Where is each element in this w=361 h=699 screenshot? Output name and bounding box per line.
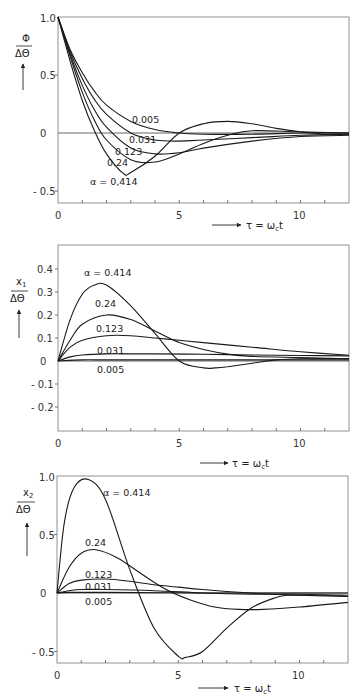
xtick-10: 10 [293,437,306,450]
ytick-neg0.1: - 0.1 [31,378,53,391]
ytick-1.0: 1.0 [40,12,56,25]
x-ticks [81,660,324,663]
xtick-10: 10 [293,209,306,222]
xtick-5: 5 [176,437,182,450]
label-0.123: 0.123 [85,569,112,580]
xtick-10: 10 [292,669,305,682]
ytick-0.1: 0.1 [37,332,53,345]
label-0.005: 0.005 [132,114,159,125]
ylabel-num: x2 [23,487,33,500]
label-0.24: 0.24 [95,298,116,309]
ytick-0: 0 [40,355,46,368]
ylabel-num: x1 [16,276,26,289]
x-ticks [82,200,325,203]
xtick-0: 0 [54,669,60,682]
curve-0.031 [58,17,349,141]
label-0.005: 0.005 [97,364,124,375]
xtick-5: 5 [176,209,182,222]
ytick-0.3: 0.3 [37,286,53,299]
label-0.031: 0.031 [97,345,124,356]
label-0.414: α = 0,414 [90,176,137,187]
ytick-neg0.5: - 0.5 [32,646,54,659]
curves [58,17,349,175]
figure: 1.0 0.5 0 - 0.5 0 5 10 Φ ΔΘ τ = ωct 0.00… [0,0,361,699]
label-0.123: 0.123 [96,323,123,334]
xlabel: τ = ωct [234,683,271,696]
y-ticks [54,535,57,652]
ytick-1.0: 1.0 [39,471,55,484]
xlabel: τ = ωct [232,458,269,471]
ytick-neg0.5: - 0.5 [33,185,55,198]
ytick-0: 0 [40,127,46,140]
x-ticks [82,428,325,431]
label-0.031: 0.031 [85,581,112,592]
label-0.24: 0.24 [85,537,106,548]
ytick-0.5: 0.5 [39,529,55,542]
y-ticks [55,75,58,191]
y-ticks [55,269,58,407]
plot-x2: 1.0 0.5 0 - 0.5 0 5 10 x2 ΔΘ τ = ωct α =… [16,471,348,696]
xtick-5: 5 [175,669,181,682]
plot-phi: 1.0 0.5 0 - 0.5 0 5 10 Φ ΔΘ τ = ωct 0.00… [15,12,349,233]
plot-x1: 0.4 0.3 0.2 0.1 0 - 0.1 - 0.2 0 5 10 x1 … [10,245,349,471]
ytick-0.5: 0.5 [40,69,56,82]
curve-0.005 [58,17,349,134]
ylabel-den: ΔΘ [15,48,30,59]
xlabel: τ = ωct [246,220,283,233]
ytick-0.2: 0.2 [37,309,53,322]
xtick-0: 0 [55,209,61,222]
curve-0.414 [58,17,349,175]
ytick-0: 0 [40,587,46,600]
ylabel-den: ΔΘ [16,504,31,515]
label-0.414: α = 0.414 [103,487,150,498]
ytick-0.4: 0.4 [37,263,53,276]
ylabel-num: Φ [22,33,30,44]
ytick-neg0.2: - 0.2 [31,401,53,414]
label-0.031: 0.031 [129,134,156,145]
curve-0.24 [58,17,349,163]
xtick-0: 0 [55,437,61,450]
label-0.123: 0.123 [115,146,142,157]
ylabel-den: ΔΘ [10,293,25,304]
label-0.24: 0.24 [107,157,128,168]
label-0.005: 0.005 [85,596,112,607]
label-0.414: α = 0.414 [84,267,131,278]
